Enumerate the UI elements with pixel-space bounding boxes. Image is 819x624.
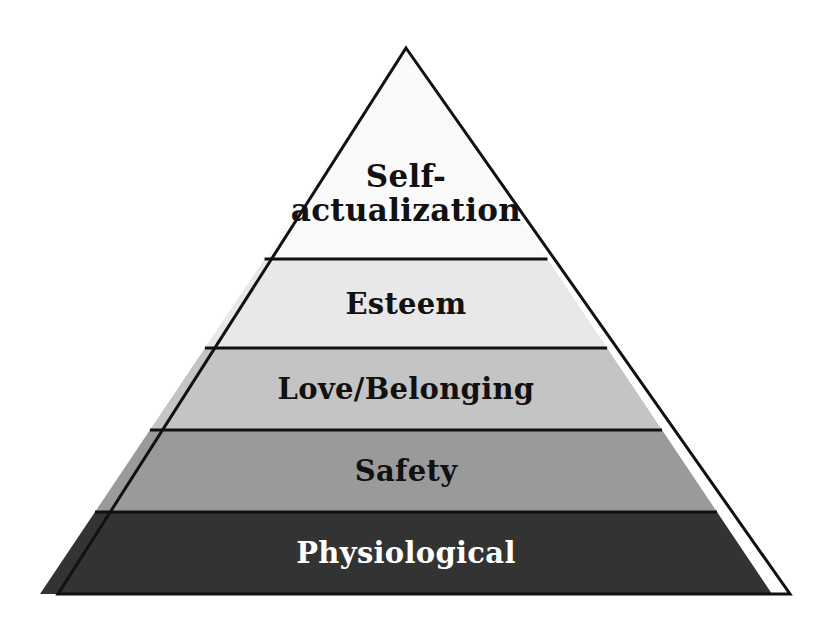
- level-label-physiological: Physiological: [296, 536, 515, 570]
- level-label-safety: Safety: [355, 454, 459, 488]
- level-label-esteem: Esteem: [345, 287, 466, 321]
- maslow-pyramid-figure: Self-actualizationEsteemLove/BelongingSa…: [0, 0, 819, 624]
- level-label-self-actualization: Self-actualization: [291, 158, 521, 229]
- level-label-love-belonging: Love/Belonging: [278, 372, 535, 406]
- pyramid-diagram: Self-actualizationEsteemLove/BelongingSa…: [0, 0, 819, 624]
